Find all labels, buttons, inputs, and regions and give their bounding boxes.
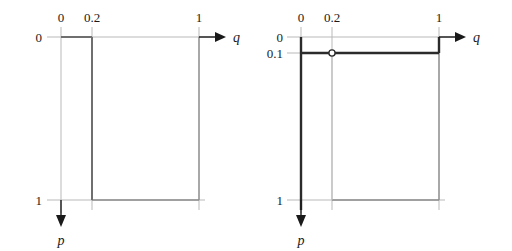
left-p-axis-arrow-icon xyxy=(56,200,66,227)
right-q-axis-arrow-icon xyxy=(439,32,466,42)
left-step-curve xyxy=(61,37,92,200)
left-xtick-label-0: 0 xyxy=(58,10,65,25)
right-panel: 0 0.2 1 0 0.1 1 q p xyxy=(256,0,512,251)
left-ytick-label-0: 0 xyxy=(36,30,43,45)
left-y-axis-label: p xyxy=(57,233,65,248)
left-xtick-label-1: 1 xyxy=(196,10,203,25)
right-ytick-label-01: 0.1 xyxy=(267,46,283,61)
left-grid-lines xyxy=(47,27,215,213)
left-panel: 0 0.2 1 0 1 q p xyxy=(0,0,256,251)
right-ytick-label-0: 0 xyxy=(277,30,284,45)
left-box-outline xyxy=(92,37,199,200)
right-grid-lines xyxy=(287,27,455,213)
left-xtick-label-02: 0.2 xyxy=(84,10,100,25)
right-step-curve xyxy=(301,37,439,210)
right-xtick-label-1: 1 xyxy=(436,10,443,25)
right-x-axis-label: q xyxy=(473,30,480,45)
left-q-axis-arrow-icon xyxy=(199,32,226,42)
figure-root: 0 0.2 1 0 1 q p xyxy=(0,0,512,251)
right-xtick-label-0: 0 xyxy=(298,10,305,25)
right-p-axis-arrow-icon xyxy=(296,200,306,227)
right-xtick-label-02: 0.2 xyxy=(324,10,340,25)
right-box-outline xyxy=(332,53,439,200)
right-y-axis-label: p xyxy=(297,233,305,248)
left-x-axis-label: q xyxy=(233,30,240,45)
left-ytick-label-1: 1 xyxy=(36,193,43,208)
open-circle-marker xyxy=(329,50,335,56)
right-ytick-label-1: 1 xyxy=(277,193,284,208)
